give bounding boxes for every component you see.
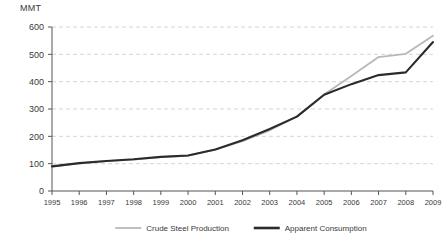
x-tick-label: 2009 xyxy=(425,198,442,207)
x-tick-label: 2003 xyxy=(261,198,278,207)
series-line-apparent-consumption xyxy=(52,42,433,166)
series-line-crude-steel-production xyxy=(52,36,433,167)
legend-label-crude-steel-production: Crude Steel Production xyxy=(146,224,229,233)
x-tick-label: 1995 xyxy=(44,198,61,207)
x-tick-label: 1998 xyxy=(125,198,142,207)
x-tick-label: 1997 xyxy=(98,198,115,207)
y-tick-label: 600 xyxy=(29,22,44,32)
legend-label-apparent-consumption: Apparent Consumption xyxy=(285,224,367,233)
y-axis-ticks: 0100200300400500600 xyxy=(29,22,52,196)
y-tick-label: 500 xyxy=(29,50,44,60)
x-tick-label: 2005 xyxy=(316,198,333,207)
grid-lines xyxy=(52,27,433,164)
x-tick-label: 2008 xyxy=(397,198,414,207)
y-tick-label: 400 xyxy=(29,77,44,87)
x-tick-label: 2006 xyxy=(343,198,360,207)
line-chart: 0100200300400500600 19951996199719981999… xyxy=(0,0,443,240)
data-series-group xyxy=(52,36,433,167)
x-tick-label: 1996 xyxy=(71,198,88,207)
chart-legend: Crude Steel ProductionApparent Consumpti… xyxy=(115,224,366,233)
y-tick-label: 100 xyxy=(29,159,44,169)
x-tick-label: 2002 xyxy=(234,198,251,207)
y-tick-label: 200 xyxy=(29,132,44,142)
x-tick-label: 1999 xyxy=(153,198,170,207)
x-tick-label: 2000 xyxy=(180,198,197,207)
x-tick-label: 2001 xyxy=(207,198,224,207)
x-axis-ticks: 1995199619971998199920002001200220032004… xyxy=(44,191,442,207)
x-tick-label: 2004 xyxy=(289,198,306,207)
x-tick-label: 2007 xyxy=(370,198,387,207)
y-axis-unit-label: MMT xyxy=(20,3,41,13)
chart-container: MMT 0100200300400500600 1995199619971998… xyxy=(0,0,443,240)
y-tick-label: 300 xyxy=(29,104,44,114)
y-tick-label: 0 xyxy=(39,186,44,196)
